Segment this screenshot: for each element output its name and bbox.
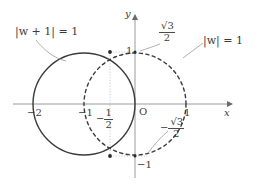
neg-sign-half: − bbox=[96, 113, 104, 124]
curve-label-w: |w| = 1 bbox=[203, 35, 243, 46]
neg-sign-sqrt3: − bbox=[160, 122, 168, 133]
label-sqrt3-over-2: 3 2 bbox=[159, 21, 175, 43]
leader-line-sqrt3-top bbox=[140, 44, 160, 51]
axis-label-x: x bbox=[224, 108, 230, 118]
tick-dot-y-bottom bbox=[134, 155, 137, 158]
label-neg-sqrt3-over-2: − 3 2 bbox=[160, 117, 184, 139]
axis-label-y: y bbox=[125, 9, 131, 19]
curve-label-w-plus-1: |w + 1| = 1 bbox=[15, 26, 78, 37]
label-minus-one-half: − 1 2 bbox=[96, 108, 113, 130]
tick-label-x-minus-1: −1 bbox=[78, 108, 93, 118]
tick-label-y-minus-1: −1 bbox=[137, 160, 152, 170]
tick-label-x-1: 1 bbox=[184, 108, 190, 118]
origin-label: O bbox=[139, 107, 147, 117]
intersection-point-lower bbox=[108, 154, 112, 158]
intersection-point-upper bbox=[108, 50, 112, 54]
figure-canvas: |w + 1| = 1 |w| = 1 3 2 − 3 2 − 1 2 −2 −… bbox=[0, 0, 259, 188]
tick-dot-y-top bbox=[134, 51, 137, 54]
leader-line-w bbox=[183, 43, 203, 58]
tick-label-x-minus-2: −2 bbox=[27, 108, 42, 118]
tick-label-y-1: 1 bbox=[126, 46, 132, 56]
